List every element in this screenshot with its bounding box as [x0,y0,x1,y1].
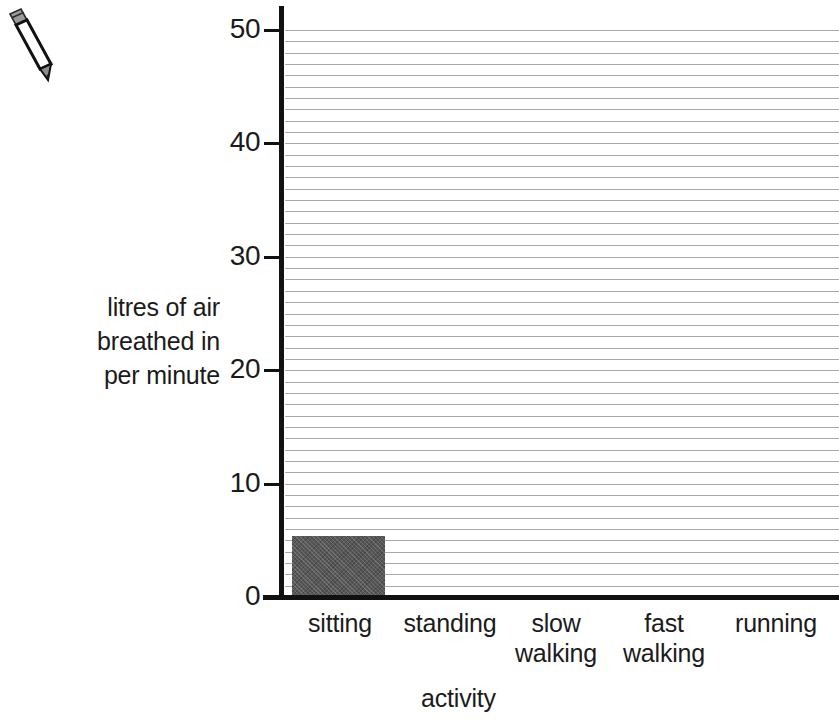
gridline [285,87,839,88]
y-axis-tick [264,369,280,372]
y-axis-tick [264,483,280,486]
gridline [285,404,839,405]
bar [292,536,385,597]
gridline [285,518,839,519]
y-axis-tick [264,596,280,599]
gridline [285,189,839,190]
x-axis-line [263,595,839,600]
gridline [285,223,839,224]
gridline [285,348,839,349]
gridline [285,211,839,212]
gridline [285,75,839,76]
gridline [285,325,839,326]
gridline [285,472,839,473]
gridline [285,461,839,462]
gridline [285,234,839,235]
gridline [285,495,839,496]
gridline [285,121,839,122]
y-axis-tick-label: 50 [200,15,260,43]
gridline [285,155,839,156]
gridline [285,359,839,360]
y-axis-tick-label: 30 [200,242,260,270]
gridline [285,382,839,383]
y-axis-tick [264,29,280,32]
y-axis-tick [264,256,280,259]
gridline [285,64,839,65]
gridline [285,529,839,530]
gridline [285,393,839,394]
gridline [285,200,839,201]
gridline [285,177,839,178]
gridline [285,98,839,99]
y-axis-tick-label: 20 [200,355,260,383]
gridline [285,438,839,439]
gridline [285,166,839,167]
gridline [285,302,839,303]
gridline [285,257,839,258]
y-axis-tick [264,142,280,145]
gridline [285,450,839,451]
gridline [285,109,839,110]
gridline [285,41,839,42]
gridline [285,132,839,133]
gridline [285,279,839,280]
gridline [285,268,839,269]
gridline [285,53,839,54]
y-axis-tick-label: 0 [200,582,260,610]
y-axis-line [279,6,284,600]
gridline [285,484,839,485]
y-axis-tick-label: 40 [200,128,260,156]
gridline [285,30,839,31]
bar-chart: 50403020100 sittingstandingslow walkingf… [0,0,839,724]
plot-region [285,30,839,597]
x-axis-title-text: activity [421,684,496,713]
gridline [285,291,839,292]
gridline [285,370,839,371]
gridline [285,506,839,507]
gridline [285,416,839,417]
gridline [285,336,839,337]
x-axis-category-label: running [701,608,839,638]
gridline [285,314,839,315]
x-axis-title: activity [0,684,839,713]
gridline [285,245,839,246]
gridline [285,427,839,428]
gridline [285,143,839,144]
y-axis-tick-label: 10 [200,469,260,497]
